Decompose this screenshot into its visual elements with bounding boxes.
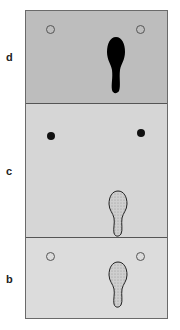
open-marker-left xyxy=(46,25,55,34)
filled-marker-left xyxy=(47,132,55,140)
solid-footprint-icon xyxy=(106,36,126,94)
outline-footprint-icon xyxy=(108,190,128,237)
open-marker-left xyxy=(46,252,55,261)
outline-footprint-icon xyxy=(108,261,128,308)
panel-label-d: d xyxy=(6,51,13,63)
panel-b xyxy=(26,238,167,318)
panel-c xyxy=(26,104,167,238)
panel-label-c: c xyxy=(6,165,12,177)
panel-d xyxy=(26,11,167,104)
figure-frame xyxy=(25,10,168,319)
open-marker-right xyxy=(136,25,145,34)
filled-marker-right xyxy=(137,129,145,137)
open-marker-right xyxy=(136,252,145,261)
panel-label-b: b xyxy=(6,273,13,285)
